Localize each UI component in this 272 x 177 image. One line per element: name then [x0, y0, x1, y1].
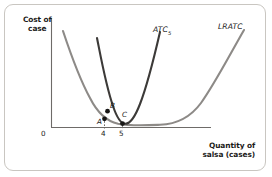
atc5-curve-label: ATC5	[153, 26, 171, 36]
point-c-label: C	[122, 111, 127, 119]
lratc-curve-label: LRATC	[218, 23, 243, 32]
x-tick-label-4: 4	[101, 130, 106, 138]
lratc-curve	[63, 30, 244, 125]
point-a-marker	[102, 116, 107, 121]
y-axis-title-line1: Cost of	[23, 15, 52, 24]
point-c-marker	[120, 121, 125, 126]
y-axis-title-line2: case	[28, 24, 46, 33]
x-axis-title-line2: salsa (cases)	[202, 150, 255, 159]
x-tick-label-5: 5	[119, 130, 124, 138]
economics-cost-curve-figure: Cost ofcase Quantity ofsalsa (cases) ATC…	[0, 0, 272, 177]
point-b-label: B	[110, 102, 115, 110]
x-axis-title-line1: Quantity of	[209, 141, 255, 150]
x-axis-title: Quantity ofsalsa (cases)	[150, 142, 255, 159]
origin-label: 0	[41, 130, 46, 138]
atc5-curve-label-base: ATC	[153, 25, 168, 34]
point-a-label: A	[97, 118, 102, 126]
y-axis-title: Cost ofcase	[23, 16, 52, 33]
atc5-curve-label-sub: 5	[168, 30, 171, 36]
